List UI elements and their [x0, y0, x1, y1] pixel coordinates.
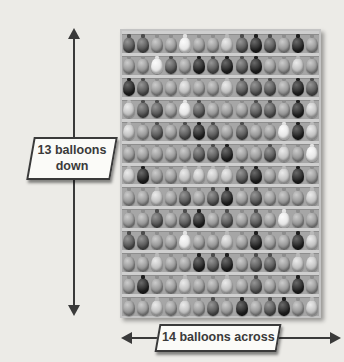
balloon-knot	[310, 100, 314, 104]
balloon	[264, 37, 276, 53]
balloon	[165, 146, 177, 162]
balloon-knot	[225, 56, 229, 60]
balloon-knot	[282, 187, 286, 191]
arrow-left-icon	[121, 332, 132, 344]
balloon-grid	[120, 29, 321, 318]
balloon-knot	[169, 231, 173, 235]
balloon	[179, 234, 191, 250]
balloon-knot	[268, 122, 272, 126]
arrow-down-icon	[68, 305, 80, 316]
balloon	[221, 300, 233, 316]
balloon-knot	[310, 209, 314, 213]
balloon	[137, 124, 149, 140]
balloon-row	[122, 119, 319, 141]
balloon-knot	[183, 187, 187, 191]
balloon-knot	[141, 231, 145, 235]
balloon-knot	[155, 144, 159, 148]
balloon-knot	[240, 166, 244, 170]
balloon	[292, 80, 304, 96]
balloon	[221, 278, 233, 294]
balloon	[137, 212, 149, 228]
balloon-knot	[127, 78, 131, 82]
balloon	[137, 58, 149, 74]
balloon-knot	[127, 231, 131, 235]
balloon	[292, 37, 304, 53]
balloon-knot	[141, 253, 145, 257]
balloon	[123, 168, 135, 184]
balloon-knot	[141, 275, 145, 279]
balloon-knot	[183, 231, 187, 235]
balloon-knot	[183, 122, 187, 126]
balloon-knot	[296, 253, 300, 257]
columns-count-label: 14 balloons across	[162, 330, 275, 346]
balloon	[236, 190, 248, 206]
balloon-knot	[310, 231, 314, 235]
balloon-knot	[169, 144, 173, 148]
balloon-knot	[211, 187, 215, 191]
balloon-knot	[225, 297, 229, 301]
balloon-knot	[197, 275, 201, 279]
balloon-knot	[141, 78, 145, 82]
balloon	[151, 256, 163, 272]
balloon	[264, 124, 276, 140]
balloon-knot	[268, 275, 272, 279]
balloon	[278, 212, 290, 228]
balloon	[221, 124, 233, 140]
balloon-row	[122, 272, 319, 294]
arrow-up-icon	[68, 28, 80, 39]
balloon	[306, 256, 318, 272]
balloon-knot	[225, 209, 229, 213]
balloon	[306, 168, 318, 184]
balloon-row	[122, 31, 319, 53]
balloon-knot	[141, 122, 145, 126]
balloon-knot	[225, 231, 229, 235]
balloon-knot	[211, 275, 215, 279]
balloon	[278, 190, 290, 206]
balloon-knot	[127, 275, 131, 279]
balloon-knot	[197, 56, 201, 60]
balloon-knot	[310, 144, 314, 148]
balloon-knot	[310, 253, 314, 257]
balloon	[193, 300, 205, 316]
balloon	[250, 58, 262, 74]
balloon-knot	[240, 144, 244, 148]
balloon-knot	[211, 297, 215, 301]
balloon	[236, 80, 248, 96]
balloon	[137, 37, 149, 53]
balloon-knot	[197, 253, 201, 257]
balloon	[151, 80, 163, 96]
balloon-knot	[310, 166, 314, 170]
balloon-row	[122, 250, 319, 272]
balloon-knot	[225, 166, 229, 170]
balloon	[292, 234, 304, 250]
balloon	[193, 168, 205, 184]
balloon	[165, 212, 177, 228]
balloon-knot	[254, 122, 258, 126]
balloon-knot	[211, 166, 215, 170]
balloon	[123, 80, 135, 96]
balloon	[264, 102, 276, 118]
balloon	[250, 234, 262, 250]
balloon	[292, 278, 304, 294]
balloon-row	[122, 53, 319, 75]
balloon-knot	[141, 34, 145, 38]
balloon	[221, 190, 233, 206]
balloon-knot	[310, 297, 314, 301]
balloon-knot	[282, 231, 286, 235]
balloon	[250, 212, 262, 228]
balloon-knot	[169, 253, 173, 257]
balloon	[137, 146, 149, 162]
balloon	[250, 124, 262, 140]
balloon-knot	[155, 166, 159, 170]
balloon-knot	[169, 78, 173, 82]
balloon-row-balloons	[122, 275, 319, 294]
balloon-knot	[254, 253, 258, 257]
balloon	[207, 256, 219, 272]
balloon	[264, 234, 276, 250]
balloon-knot	[282, 34, 286, 38]
balloon	[236, 124, 248, 140]
balloon-knot	[127, 187, 131, 191]
balloon-knot	[254, 275, 258, 279]
balloon	[179, 190, 191, 206]
balloon-knot	[310, 275, 314, 279]
